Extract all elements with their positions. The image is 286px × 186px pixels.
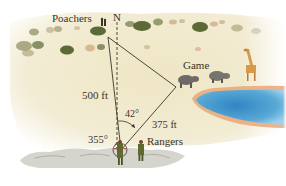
label-game: Game	[183, 60, 209, 71]
label-distance-game: 375 ft	[152, 120, 177, 131]
label-rangers: Rangers	[147, 136, 183, 147]
savanna-diagram: Poachers N Game 500 ft 42° 375 ft 355° R…	[0, 0, 286, 186]
label-north: N	[113, 12, 121, 23]
label-bearing-355: 355°	[88, 135, 108, 146]
scene-illustration	[0, 0, 286, 186]
label-angle-42: 42°	[125, 109, 139, 119]
label-distance-poachers: 500 ft	[82, 90, 108, 101]
label-poachers: Poachers	[52, 13, 92, 24]
